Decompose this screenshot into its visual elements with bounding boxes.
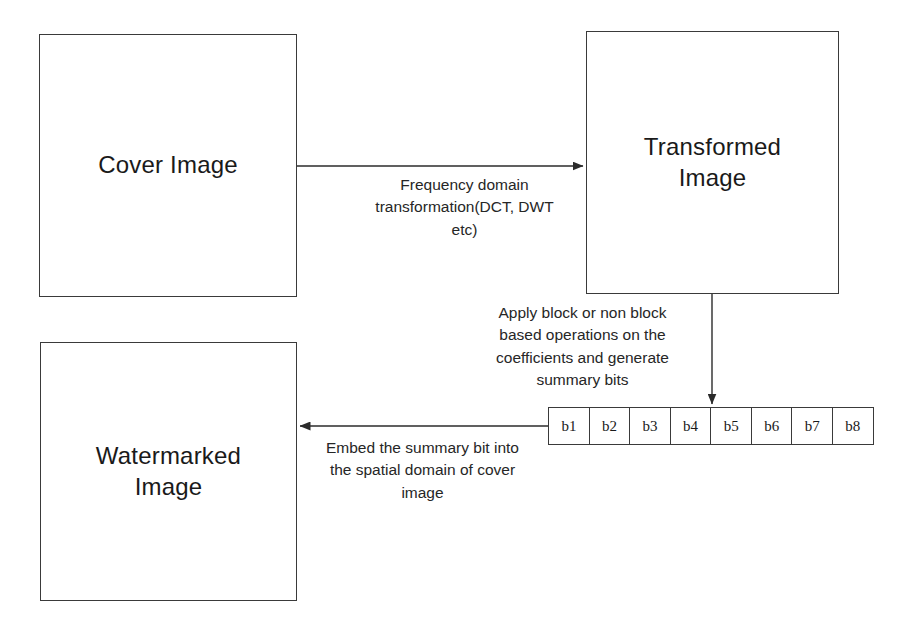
edge-label-apply-operations: Apply block or non block based operation…	[470, 302, 695, 392]
bit-cell[interactable]: b2	[589, 407, 631, 445]
diagram-canvas: Cover Image Transformed Image Watermarke…	[0, 0, 915, 631]
bit-cell[interactable]: b5	[710, 407, 752, 445]
node-watermarked-image-label: Watermarked Image	[86, 441, 251, 502]
edge-label-frequency-transformation: Frequency domain transformation(DCT, DWT…	[337, 174, 592, 241]
bit-cell[interactable]: b4	[670, 407, 712, 445]
node-cover-image-label: Cover Image	[88, 150, 248, 181]
node-transformed-image-label: Transformed Image	[634, 132, 791, 193]
bit-cell[interactable]: b6	[751, 407, 793, 445]
node-watermarked-image[interactable]: Watermarked Image	[40, 342, 297, 601]
edge-label-embed-summary-bit: Embed the summary bit into the spatial d…	[296, 437, 549, 504]
bit-cell[interactable]: b8	[832, 407, 874, 445]
bit-cell[interactable]: b7	[791, 407, 833, 445]
bit-cell[interactable]: b3	[629, 407, 671, 445]
node-cover-image[interactable]: Cover Image	[39, 34, 297, 297]
summary-bit-array: b1 b2 b3 b4 b5 b6 b7 b8	[548, 407, 874, 445]
node-transformed-image[interactable]: Transformed Image	[586, 31, 839, 294]
bit-cell[interactable]: b1	[548, 407, 590, 445]
